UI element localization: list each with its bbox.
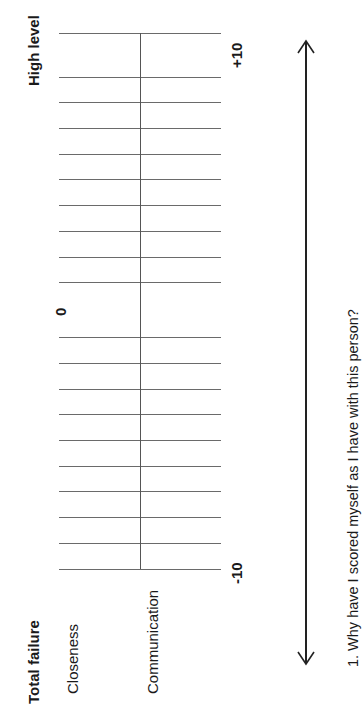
- grid-line: [59, 569, 221, 570]
- total-failure-label: Total failure: [25, 620, 42, 704]
- high-level-label: High level: [25, 15, 42, 86]
- min-score-label: -10: [228, 562, 245, 584]
- closeness-label: Closeness: [64, 624, 81, 694]
- row-divider-line: [140, 33, 141, 569]
- communication-label: Communication: [144, 590, 161, 694]
- max-score-label: +10: [228, 43, 245, 68]
- reflection-question: 1. Why have I scored myself as I have wi…: [345, 309, 361, 667]
- mid-score-label: 0: [52, 308, 69, 316]
